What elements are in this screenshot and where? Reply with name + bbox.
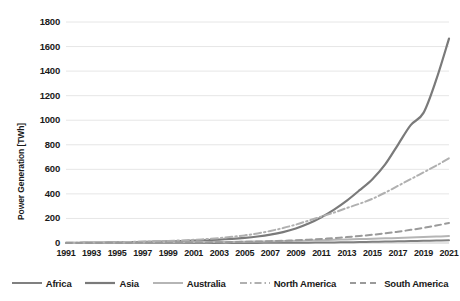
x-tick-label: 2021 (434, 248, 460, 258)
y-tick-label: 1400 (26, 65, 60, 76)
legend-label: Africa (46, 278, 72, 289)
legend-swatch-icon (85, 278, 115, 288)
legend-label: Australia (187, 278, 226, 289)
y-tick-label: 1800 (26, 16, 60, 27)
y-tick-label: 200 (26, 212, 60, 223)
legend-item-south-america[interactable]: South America (350, 278, 448, 289)
legend-item-north-america[interactable]: North America (240, 278, 337, 289)
chart-legend: AfricaAsiaAustraliaNorth AmericaSouth Am… (0, 273, 460, 293)
series-line-asia (66, 39, 449, 243)
y-tick-label: 400 (26, 188, 60, 199)
y-tick-label: 1000 (26, 114, 60, 125)
y-tick-label: 1200 (26, 90, 60, 101)
legend-label: Asia (119, 278, 138, 289)
y-tick-label: 0 (26, 237, 60, 248)
legend-swatch-icon (12, 278, 42, 288)
y-tick-label: 1600 (26, 41, 60, 52)
legend-swatch-icon (350, 278, 380, 288)
legend-swatch-icon (240, 278, 270, 288)
legend-item-australia[interactable]: Australia (153, 278, 226, 289)
power-generation-line-chart: Power Generation [TWh] 02004006008001000… (0, 0, 460, 301)
legend-item-africa[interactable]: Africa (12, 278, 72, 289)
y-axis-title: Power Generation [TWh] (16, 123, 26, 220)
y-tick-label: 800 (26, 139, 60, 150)
legend-swatch-icon (153, 278, 183, 288)
legend-label: North America (274, 278, 337, 289)
series-line-north-america (66, 158, 449, 242)
y-tick-label: 600 (26, 163, 60, 174)
legend-item-asia[interactable]: Asia (85, 278, 138, 289)
legend-label: South America (384, 278, 448, 289)
